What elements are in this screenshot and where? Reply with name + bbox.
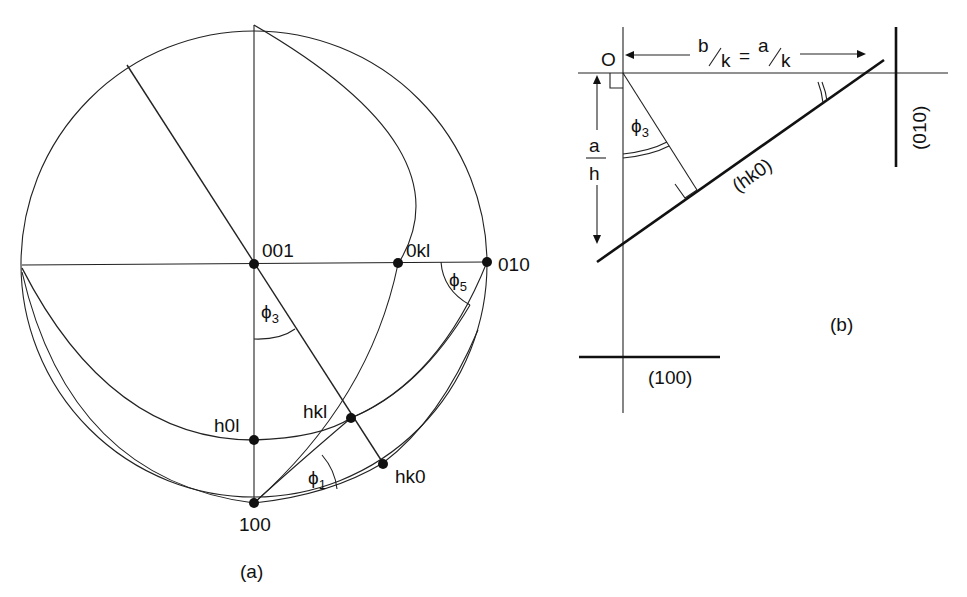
svg-text:b: b [698,35,709,56]
label-phi3: ϕ3 [261,301,279,326]
pole-0kl [393,258,403,268]
panel-b-intercepts: O b k = a k a h ϕ3 (hk0) [578,27,948,413]
svg-text:a: a [758,35,769,56]
pole-hkl [346,413,356,423]
arrowhead-down-icon [593,235,601,244]
angle-arc-intercept-inner [818,82,823,103]
label-100: 100 [239,514,271,535]
right-angle-foot [675,184,697,198]
label-0kl: 0kl [406,240,430,261]
pole-100 [249,498,259,508]
right-angle-origin [610,73,623,88]
angle-arc-phi3 [254,329,295,339]
pole-001 [249,259,259,269]
svg-text:k: k [781,50,791,71]
label-plane-100: (100) [648,367,692,388]
label-plane-010: (010) [909,106,930,150]
pole-hk0 [378,459,388,469]
arrowhead-left-icon [625,51,634,59]
label-phi3-b: ϕ3 [631,115,649,140]
angle-arc-phi3-b-inner [623,146,669,158]
panel-a-stereogram: 001 0kl 010 h0l hkl hk0 100 ϕ3 ϕ5 ϕ1 (a) [21,25,530,582]
label-hkl: hkl [303,401,327,422]
arrowhead-right-icon [857,50,866,58]
great-circle-h0l [22,268,351,440]
label-h0l: h0l [214,415,239,436]
pole-010 [482,257,492,267]
angle-arc-phi3-b [623,142,667,154]
label-010: 010 [498,254,530,275]
label-origin: O [601,49,616,70]
caption-b: (b) [830,314,853,335]
svg-text:h: h [589,163,600,184]
svg-text:=: = [739,45,750,66]
label-001: 001 [262,240,294,261]
svg-text:k: k [721,50,731,71]
svg-text:a: a [589,135,600,156]
label-hk0: hk0 [395,466,426,487]
plane-hk0 [597,60,884,262]
pole-h0l [249,435,259,445]
label-intercept-top: b k = a k [698,35,791,71]
label-intercept-left: a h [586,135,606,184]
great-circle-h0l-upper [351,305,470,418]
arrowhead-up-icon [593,75,601,84]
stereographic-figure: 001 0kl 010 h0l hkl hk0 100 ϕ3 ϕ5 ϕ1 (a) [0,0,967,597]
caption-a: (a) [240,561,263,582]
label-plane-hk0: (hk0) [728,154,776,196]
